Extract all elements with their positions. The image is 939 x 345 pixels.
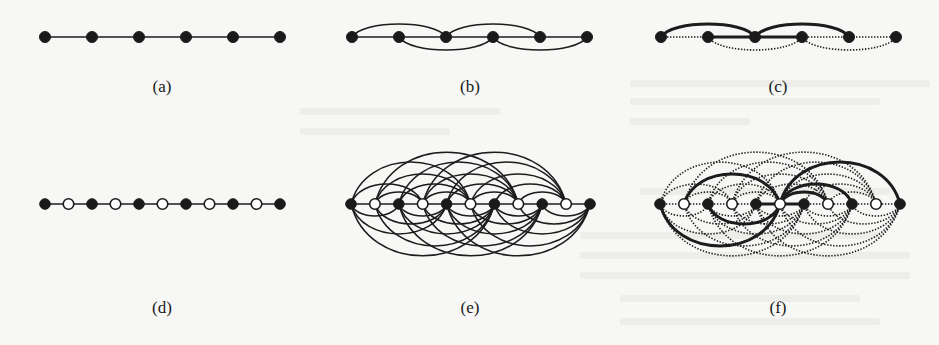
subdivision-node	[871, 199, 882, 210]
subdivision-node	[370, 199, 381, 210]
vertex-node	[797, 32, 808, 43]
bleed-line	[300, 108, 500, 115]
vertex-node	[891, 32, 902, 43]
vertex-node	[895, 199, 906, 210]
highlight-arc	[780, 162, 900, 204]
subdivision-node	[513, 199, 524, 210]
vertex-node	[40, 199, 51, 210]
vertex-node	[228, 199, 239, 210]
vertex-node	[87, 199, 98, 210]
subdivision-node	[204, 199, 215, 210]
bleed-line	[580, 232, 880, 239]
edge-arc	[351, 162, 471, 204]
vertex-node	[275, 32, 286, 43]
vertex-node	[703, 199, 714, 210]
vertex-node	[134, 32, 145, 43]
edge-arc	[375, 204, 495, 246]
subdivision-node	[823, 199, 834, 210]
bleed-line	[620, 318, 880, 325]
vertex-node	[347, 32, 358, 43]
vertex-node	[441, 199, 452, 210]
vertex-node	[488, 32, 499, 43]
vertex-node	[750, 32, 761, 43]
vertex-node	[535, 32, 546, 43]
bleed-line	[630, 98, 880, 105]
edge-arc	[471, 204, 591, 246]
figure-canvas: (a) (b) (c) (d) (e) (f)	[0, 0, 939, 345]
panel-label-e: (e)	[461, 298, 480, 317]
panel-label-b: (b)	[460, 77, 480, 96]
vertex-node	[489, 199, 500, 210]
vertex-node	[655, 199, 666, 210]
bleed-line	[620, 295, 860, 302]
edge-arc	[423, 204, 543, 246]
edge-arc	[447, 162, 566, 204]
vertex-node	[585, 199, 596, 210]
vertex-node	[582, 32, 593, 43]
vertex-node	[703, 32, 714, 43]
panel-f-highlighted-subdivided	[655, 152, 906, 256]
subdivision-node	[561, 199, 572, 210]
vertex-node	[441, 32, 452, 43]
vertex-node	[181, 199, 192, 210]
subdivision-node	[110, 199, 121, 210]
subdivision-node	[63, 199, 74, 210]
vertex-node	[799, 199, 810, 210]
vertex-node	[228, 32, 239, 43]
subdivision-node	[157, 199, 168, 210]
panel-label-f: (f)	[770, 298, 787, 317]
subdivision-node	[679, 199, 690, 210]
vertex-node	[847, 199, 858, 210]
bleed-line	[630, 118, 750, 125]
bleed-line	[580, 272, 910, 279]
subdivision-node	[465, 199, 476, 210]
panel-label-a: (a)	[153, 77, 172, 96]
edge-arc	[780, 204, 900, 246]
panel-a-path-graph	[40, 32, 286, 43]
subdivision-node	[251, 199, 262, 210]
panel-b-path-with-arcs	[347, 24, 593, 50]
vertex-node	[394, 199, 405, 210]
panel-label-c: (c)	[769, 77, 788, 96]
subdivision-node	[417, 199, 428, 210]
subdivision-node	[727, 199, 738, 210]
panel-c-highlighted-path	[656, 24, 902, 50]
vertex-node	[181, 32, 192, 43]
vertex-node	[844, 32, 855, 43]
vertex-node	[346, 199, 357, 210]
panel-label-d: (d)	[152, 298, 172, 317]
vertex-node	[656, 32, 667, 43]
subdivision-node	[775, 199, 786, 210]
vertex-node	[275, 199, 286, 210]
vertex-node	[134, 199, 145, 210]
vertex-node	[87, 32, 98, 43]
bleed-line	[300, 128, 450, 135]
vertex-node	[394, 32, 405, 43]
vertex-node	[40, 32, 51, 43]
edge-arc	[399, 162, 519, 204]
vertex-node	[751, 199, 762, 210]
panel-e-subdivided-arcs	[346, 152, 596, 256]
vertex-node	[537, 199, 548, 210]
panel-d-subdivided-path	[40, 199, 286, 210]
